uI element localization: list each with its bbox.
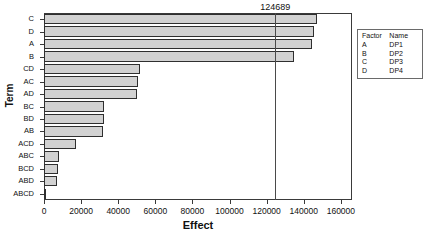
x-tick-mark (304, 200, 305, 204)
y-tick-label-a: A (29, 40, 34, 48)
bar-ad (44, 89, 137, 99)
y-tick-label-bd: BD (24, 115, 34, 123)
bar-series (44, 13, 352, 200)
y-tick-mark (40, 119, 44, 120)
legend-row: BDP2 (362, 49, 419, 58)
pareto-chart: CDABCDACADBCBDABACDABCBCDABDABCD Term 02… (0, 0, 426, 241)
y-tick-label-abcd: ABCD (13, 190, 34, 198)
bar-ab (44, 126, 103, 136)
y-tick-mark (40, 107, 44, 108)
bar-abd (44, 176, 57, 186)
y-axis-title: Term (4, 66, 15, 126)
legend-name-c: DP3 (389, 58, 419, 67)
legend-table: Factor Name ADP1BDP2CDP3DDP4 (362, 32, 419, 75)
legend-box: Factor Name ADP1BDP2CDP3DDP4 (357, 29, 423, 79)
legend-name-a: DP1 (389, 41, 419, 50)
bar-bc (44, 101, 104, 111)
legend-name-d: DP4 (389, 66, 419, 75)
y-tick-label-ac: AC (24, 78, 34, 86)
bar-bd (44, 114, 104, 124)
x-tick-mark (44, 200, 45, 204)
x-tick-label: 20000 (69, 206, 93, 216)
y-tick-mark (40, 69, 44, 70)
bar-row (44, 163, 352, 175)
bar-abc (44, 151, 59, 161)
y-tick-mark (40, 131, 44, 132)
bar-row (44, 38, 352, 50)
bar-row (44, 125, 352, 137)
bar-row (44, 50, 352, 62)
x-tick-label: 60000 (143, 206, 167, 216)
legend-row: DDP4 (362, 66, 419, 75)
bar-row (44, 75, 352, 87)
x-tick-mark (118, 200, 119, 204)
x-tick-mark (341, 200, 342, 204)
x-tick-label: 140000 (290, 206, 318, 216)
y-tick-mark (40, 32, 44, 33)
bar-bcd (44, 164, 58, 174)
legend-factor-c: C (362, 58, 389, 67)
y-tick-label-bc: BC (24, 103, 34, 111)
bar-row (44, 88, 352, 100)
legend-header-name: Name (389, 32, 419, 41)
x-tick-label: 100000 (215, 206, 243, 216)
x-tick-mark (267, 200, 268, 204)
legend-name-b: DP2 (389, 49, 419, 58)
x-tick-mark (81, 200, 82, 204)
bar-row (44, 188, 352, 200)
reference-line-label: 124689 (260, 2, 290, 12)
legend-header-factor: Factor (362, 32, 389, 41)
y-tick-label-c: C (29, 15, 34, 23)
chart-title (100, 0, 260, 3)
legend-factor-a: A (362, 41, 389, 50)
bar-row (44, 150, 352, 162)
y-tick-mark (40, 82, 44, 83)
y-tick-label-cd: CD (23, 65, 34, 73)
y-tick-label-abc: ABC (19, 152, 34, 160)
y-tick-label-ad: AD (24, 90, 34, 98)
bar-ac (44, 76, 138, 86)
y-tick-mark (40, 57, 44, 58)
y-tick-label-abd: ABD (19, 177, 34, 185)
bar-row (44, 13, 352, 25)
y-tick-mark (40, 181, 44, 182)
y-tick-label-d: D (29, 28, 34, 36)
legend-row: ADP1 (362, 41, 419, 50)
y-tick-mark (40, 144, 44, 145)
y-tick-label-b: B (29, 53, 34, 61)
y-tick-label-bcd: BCD (18, 165, 34, 173)
bar-row (44, 63, 352, 75)
legend-factor-d: D (362, 66, 389, 75)
bar-row (44, 113, 352, 125)
bar-acd (44, 139, 76, 149)
bar-abcd (44, 189, 46, 199)
bar-row (44, 100, 352, 112)
y-tick-mark (40, 94, 44, 95)
x-tick-label: 80000 (181, 206, 205, 216)
bar-row (44, 25, 352, 37)
bar-row (44, 175, 352, 187)
bar-a (44, 39, 312, 49)
x-tick-mark (155, 200, 156, 204)
bar-row (44, 138, 352, 150)
y-tick-label-ab: AB (24, 127, 34, 135)
y-tick-mark (40, 156, 44, 157)
x-tick-label: 120000 (252, 206, 280, 216)
legend-row: CDP3 (362, 58, 419, 67)
y-tick-mark (40, 44, 44, 45)
y-tick-mark (40, 169, 44, 170)
y-tick-label-acd: ACD (18, 140, 34, 148)
bar-d (44, 26, 314, 36)
bar-b (44, 51, 294, 61)
y-tick-mark (40, 19, 44, 20)
legend-factor-b: B (362, 49, 389, 58)
reference-line (275, 13, 276, 200)
bar-cd (44, 64, 140, 74)
x-tick-label: 0 (42, 206, 47, 216)
x-tick-mark (192, 200, 193, 204)
x-tick-mark (230, 200, 231, 204)
x-axis-title: Effect (44, 219, 352, 231)
x-tick-label: 160000 (327, 206, 355, 216)
x-tick-label: 40000 (106, 206, 130, 216)
legend-header-row: Factor Name (362, 32, 419, 41)
